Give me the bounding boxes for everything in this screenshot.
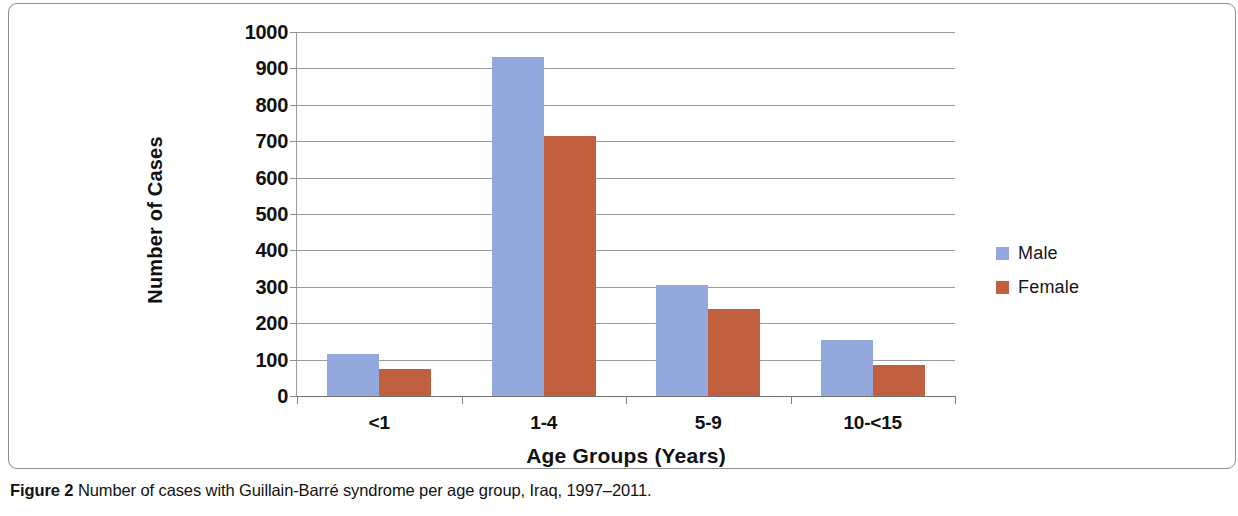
y-axis-tick-label: 600 xyxy=(214,168,288,188)
y-axis-tick-label: 100 xyxy=(214,350,288,370)
y-axis-tick xyxy=(290,396,297,397)
chart-legend: MaleFemale xyxy=(996,236,1156,304)
legend-label-male: Male xyxy=(1018,243,1058,264)
y-axis-tick xyxy=(290,360,297,361)
y-axis-tick xyxy=(290,250,297,251)
legend-swatch-female xyxy=(996,281,1009,294)
y-axis-tick-label: 800 xyxy=(214,95,288,115)
y-axis-tick-label: 0 xyxy=(214,386,288,406)
figure-caption-label: Figure 2 xyxy=(10,481,73,499)
y-axis-tick-label: 400 xyxy=(214,240,288,260)
bar-group xyxy=(492,32,596,396)
x-axis-tick xyxy=(462,396,463,404)
x-axis-tick xyxy=(297,396,298,404)
legend-label-female: Female xyxy=(1018,277,1079,298)
y-axis-tick xyxy=(290,68,297,69)
bar-group xyxy=(821,32,925,396)
x-axis-tick-label: 5-9 xyxy=(626,412,791,434)
x-axis-title: Age Groups (Years) xyxy=(297,444,955,468)
y-axis-tick-label: 200 xyxy=(214,313,288,333)
figure-caption-text: Number of cases with Guillain-Barré synd… xyxy=(78,481,652,499)
bar-female-1-4 xyxy=(544,136,596,396)
bar-female-1 xyxy=(379,369,431,396)
x-axis-tick-label: 1-4 xyxy=(462,412,627,434)
y-axis-tick xyxy=(290,178,297,179)
bar-male-10-15 xyxy=(821,340,873,396)
y-axis-tick-labels: 10009008007006005004003002001000 xyxy=(208,0,288,400)
x-axis-tick xyxy=(955,396,956,404)
bar-group xyxy=(327,32,431,396)
x-axis-tick-label: 10-<15 xyxy=(791,412,956,434)
x-axis-tick-label: <1 xyxy=(297,412,462,434)
bar-female-10-15 xyxy=(873,365,925,396)
y-axis-tick-label: 900 xyxy=(214,58,288,78)
bar-male-1-4 xyxy=(492,57,544,396)
plot-area xyxy=(297,32,955,396)
x-axis-tick xyxy=(626,396,627,404)
y-axis-tick-label: 1000 xyxy=(214,22,288,42)
y-axis-title: Number of Cases xyxy=(144,100,174,340)
y-axis-tick xyxy=(290,214,297,215)
bar-male-1 xyxy=(327,354,379,396)
bar-female-5-9 xyxy=(708,309,760,396)
legend-item-male: Male xyxy=(996,236,1156,270)
y-axis-tick-label: 300 xyxy=(214,277,288,297)
bar-group xyxy=(656,32,760,396)
y-axis-tick xyxy=(290,32,297,33)
figure-caption: Figure 2 Number of cases with Guillain-B… xyxy=(10,481,1220,500)
y-axis-tick-label: 500 xyxy=(214,204,288,224)
bar-male-5-9 xyxy=(656,285,708,396)
legend-item-female: Female xyxy=(996,270,1156,304)
legend-swatch-male xyxy=(996,247,1009,260)
figure-container: Number of Cases 100090080070060050040030… xyxy=(0,0,1238,516)
y-axis-tick xyxy=(290,105,297,106)
y-axis-tick xyxy=(290,141,297,142)
y-axis-tick-label: 700 xyxy=(214,131,288,151)
x-axis-tick xyxy=(791,396,792,404)
y-axis-tick xyxy=(290,323,297,324)
y-axis-tick xyxy=(290,287,297,288)
